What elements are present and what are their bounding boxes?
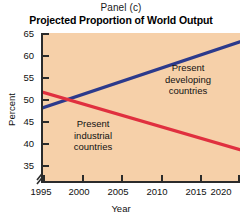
annotation-industrial-countries: Present industrial countries [53,118,133,153]
y-tick-label-60: 60 [14,50,34,61]
x-tick-mark-2005 [121,175,123,181]
annotation-developing-countries: Present developing countries [146,62,230,97]
x-tick-mark-2015 [200,175,202,181]
x-tick-label-2000: 2000 [62,186,96,197]
y-tick-mark-65 [43,33,49,35]
x-tick-mark-2020 [238,175,240,181]
plot-area [41,33,240,183]
y-tick-mark-35 [43,165,49,167]
x-tick-mark-1995 [43,175,45,181]
x-tick-mark-2000 [82,175,84,181]
x-axis-title: Year [0,203,242,214]
panel-label: Panel (c) [0,2,242,13]
chart-figure: Panel (c) Projected Proportion of World … [0,0,242,221]
y-tick-label-35: 35 [14,160,34,171]
y-tick-mark-60 [43,55,49,57]
y-tick-mark-40 [43,143,49,145]
y-tick-mark-45 [43,121,49,123]
x-tick-label-1995: 1995 [24,186,58,197]
x-tick-label-2005: 2005 [101,186,135,197]
plot-inner [43,33,240,181]
y-tick-mark-50 [43,99,49,101]
y-tick-mark-55 [43,77,49,79]
chart-title: Projected Proportion of World Output [0,14,242,26]
x-tick-label-2010: 2010 [140,186,174,197]
x-tick-label-2020: 2020 [204,186,238,197]
y-tick-label-55: 55 [14,72,34,83]
x-tick-mark-2010 [161,175,163,181]
y-tick-label-45: 45 [14,116,34,127]
y-tick-label-65: 65 [14,28,34,39]
y-axis-title: Percent [6,80,17,140]
y-tick-label-50: 50 [14,94,34,105]
y-tick-label-40: 40 [14,138,34,149]
series-svg [43,33,240,181]
